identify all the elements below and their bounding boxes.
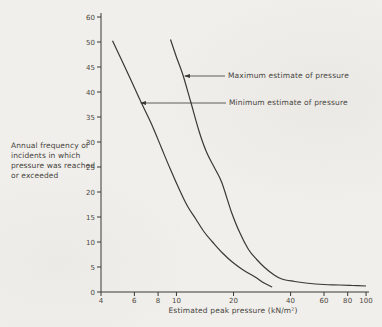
x-tick-label: 40	[286, 297, 295, 305]
x-tick-label: 80	[343, 297, 352, 305]
y-tick-label: 45	[86, 64, 95, 72]
y-tick-label: 20	[86, 189, 95, 197]
y-tick-label: 35	[86, 114, 95, 122]
x-tick-label: 60	[319, 297, 328, 305]
y-tick-label: 0	[90, 289, 95, 297]
arrowhead-maximum-icon	[184, 74, 190, 78]
x-axis-title: Estimated peak pressure (kN/m²)	[160, 306, 306, 315]
annotation-maximum-estimate: Maximum estimate of pressure	[228, 72, 349, 80]
x-tick-label: 100	[359, 297, 373, 305]
y-tick-label: 40	[86, 89, 95, 97]
x-tick-label: 10	[172, 297, 181, 305]
x-tick-label: 20	[229, 297, 238, 305]
x-tick-label: 4	[99, 297, 104, 305]
x-tick-label: 8	[156, 297, 161, 305]
axes-lines	[101, 13, 369, 292]
y-tick-label: 50	[86, 39, 95, 47]
y-tick-label: 10	[86, 239, 95, 247]
y-tick-label: 5	[90, 264, 95, 272]
y-tick-label: 15	[86, 214, 95, 222]
y-axis-title: Annual frequency of incidents in which p…	[11, 141, 101, 181]
y-tick-label: 60	[86, 14, 95, 22]
annotation-minimum-estimate: Minimum estimate of pressure	[229, 99, 348, 107]
chart-figure: 60504540353025201510504681020406080100 A…	[0, 0, 382, 327]
x-tick-label: 6	[132, 297, 137, 305]
